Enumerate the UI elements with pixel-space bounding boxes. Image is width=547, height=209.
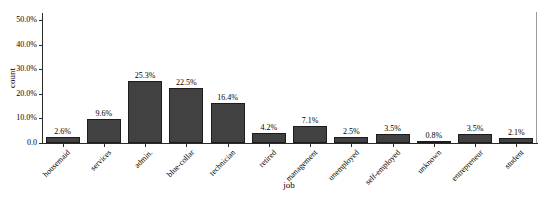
x-tick-label: self-employed [363, 148, 402, 187]
bar-value-label: 16.4% [206, 93, 250, 102]
y-tick-mark [39, 45, 42, 46]
x-tick-mark [475, 144, 476, 147]
x-tick-mark [310, 144, 311, 147]
bar [293, 126, 327, 143]
x-tick-label: technician [207, 148, 237, 178]
bar-value-label: 2.5% [329, 127, 373, 136]
bar-value-label: 2.6% [41, 127, 85, 136]
bar-value-label: 3.5% [371, 124, 415, 133]
x-tick-label: student [503, 148, 526, 171]
y-tick-mark [39, 118, 42, 119]
x-tick-mark [228, 144, 229, 147]
bar [128, 81, 162, 143]
x-tick-mark [63, 144, 64, 147]
x-tick-label: management [284, 148, 319, 183]
y-tick-label: 40.0% [1, 40, 37, 50]
bar-value-label: 4.2% [247, 123, 291, 132]
x-tick-label: services [89, 148, 114, 173]
y-axis-line [42, 13, 43, 143]
x-tick-mark [434, 144, 435, 147]
y-tick-label: 20.0% [1, 89, 37, 99]
y-tick-mark [39, 143, 42, 144]
bar [211, 103, 245, 143]
x-tick-mark [145, 144, 146, 147]
bar [417, 141, 451, 143]
bar-chart-figure: count job 0.010.0%20.0%30.0%40.0%50.0%2.… [0, 0, 547, 209]
bar [376, 134, 410, 143]
x-tick-label: unknown [416, 148, 443, 175]
bar-value-label: 3.5% [453, 124, 497, 133]
bar [334, 137, 368, 143]
bar [87, 119, 121, 143]
bar-value-label: 25.3% [123, 71, 167, 80]
x-tick-mark [104, 144, 105, 147]
x-tick-mark [186, 144, 187, 147]
bar [499, 138, 533, 143]
x-tick-mark [351, 144, 352, 147]
x-axis-line [42, 143, 538, 144]
y-tick-label: 0.0 [1, 138, 37, 148]
x-tick-label: admin. [133, 148, 155, 170]
x-tick-mark [393, 144, 394, 147]
bar [252, 133, 286, 143]
bar [46, 137, 80, 143]
x-tick-label: retired [257, 148, 278, 169]
y-tick-mark [39, 69, 42, 70]
bar-value-label: 22.5% [164, 78, 208, 87]
x-tick-label: housemaid [41, 148, 72, 179]
x-tick-mark [269, 144, 270, 147]
plot-area: 0.010.0%20.0%30.0%40.0%50.0%2.6%housemai… [0, 0, 547, 209]
bar-value-label: 7.1% [288, 116, 332, 125]
bar-value-label: 2.1% [494, 128, 538, 137]
y-tick-label: 30.0% [1, 64, 37, 74]
x-tick-label: blue-collar [165, 148, 196, 179]
y-tick-mark [39, 94, 42, 95]
bar [458, 134, 492, 143]
bar [169, 88, 203, 143]
y-tick-label: 10.0% [1, 113, 37, 123]
x-tick-label: unemployed [326, 148, 360, 182]
y-tick-mark [39, 20, 42, 21]
bar-value-label: 9.6% [82, 109, 126, 118]
bar-value-label: 0.8% [412, 131, 456, 140]
x-tick-label: entrepreneur [450, 148, 485, 183]
panel-right-border [536, 12, 537, 143]
y-tick-label: 50.0% [1, 15, 37, 25]
x-tick-mark [516, 144, 517, 147]
